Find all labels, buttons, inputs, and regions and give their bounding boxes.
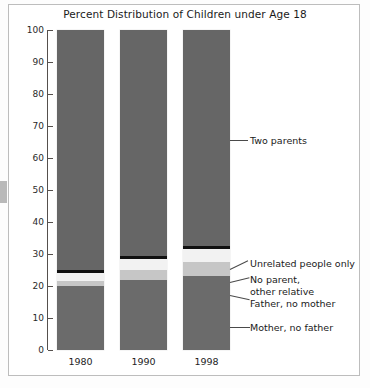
- y-tick-label: 50: [33, 185, 44, 195]
- y-tick-label: 40: [33, 217, 44, 227]
- bar-segment: [183, 262, 230, 276]
- y-tick-label: 10: [33, 313, 44, 323]
- bar-segment: [120, 270, 167, 280]
- y-tick-mark: [48, 30, 53, 31]
- bar-segment: [183, 249, 230, 262]
- annotation-leader-line: [230, 295, 250, 300]
- bar-segment: [183, 246, 230, 249]
- x-axis-label-1998: 1998: [183, 356, 230, 367]
- y-tick-label: 80: [33, 89, 44, 99]
- page-edge-artifact: [0, 181, 7, 203]
- y-tick-mark: [48, 286, 53, 287]
- bar-segment: [183, 30, 230, 246]
- annotation-label: No parent, other relative: [250, 274, 314, 297]
- y-tick-label: 60: [33, 153, 44, 163]
- y-tick-label: 0: [38, 345, 44, 355]
- annotation-label: Father, no mother: [250, 298, 335, 310]
- x-axis-label-1980: 1980: [57, 356, 104, 367]
- y-tick-mark: [48, 190, 53, 191]
- bar-segment: [57, 286, 104, 350]
- y-tick-mark: [48, 158, 53, 159]
- bar-segment: [120, 30, 167, 256]
- annotation-leader-line: [230, 140, 248, 141]
- y-tick-mark: [48, 254, 53, 255]
- y-tick-label: 90: [33, 57, 44, 67]
- y-tick-mark: [48, 350, 53, 351]
- y-tick-mark: [48, 94, 53, 95]
- annotation-label: Mother, no father: [250, 322, 333, 334]
- y-tick-label: 70: [33, 121, 44, 131]
- annotation-leader-line: [230, 327, 250, 328]
- y-tick-mark: [48, 222, 53, 223]
- bar-segment: [57, 270, 104, 273]
- bar-segment: [57, 30, 104, 270]
- bar-segment: [120, 259, 167, 270]
- annotation-leader-line: [230, 260, 248, 270]
- bar-segment: [120, 280, 167, 350]
- y-tick-label: 100: [27, 25, 44, 35]
- chart-title: Percent Distribution of Children under A…: [0, 8, 370, 20]
- chart-page: Percent Distribution of Children under A…: [0, 0, 370, 388]
- bar-segment: [57, 273, 104, 281]
- bar-segment: [120, 256, 167, 259]
- y-tick-label: 30: [33, 249, 44, 259]
- bar-1998: [183, 30, 230, 350]
- y-tick-mark: [48, 126, 53, 127]
- bar-1990: [120, 30, 167, 350]
- annotation-label: Two parents: [250, 135, 307, 147]
- y-tick-label: 20: [33, 281, 44, 291]
- annotation-leader-line: [230, 277, 250, 283]
- y-tick-mark: [48, 62, 53, 63]
- y-tick-mark: [48, 318, 53, 319]
- bar-1980: [57, 30, 104, 350]
- annotation-label: Unrelated people only: [250, 258, 355, 270]
- plot-area: 0102030405060708090100 198019901998 Two …: [47, 30, 247, 350]
- bar-segment: [57, 281, 104, 286]
- bar-segment: [183, 276, 230, 350]
- x-axis-label-1990: 1990: [120, 356, 167, 367]
